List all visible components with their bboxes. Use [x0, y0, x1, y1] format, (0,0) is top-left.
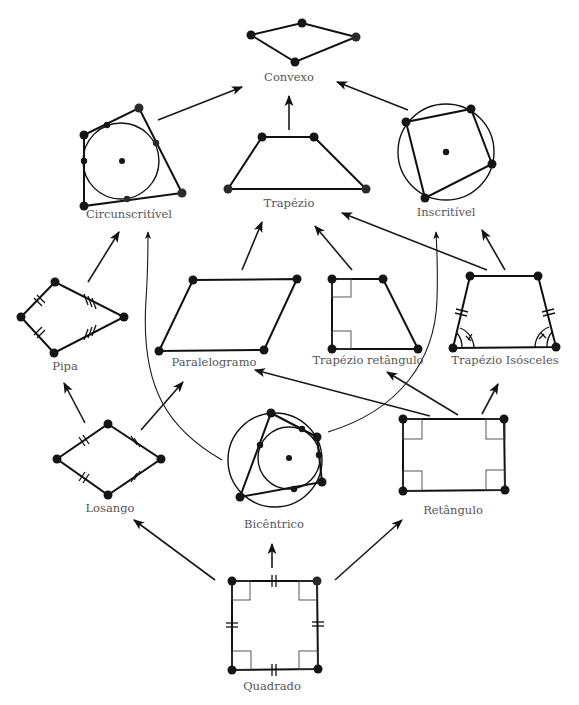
node-label-trapezio-isosceles: Trapézio Isósceles: [451, 353, 559, 367]
edge-bicentrico-circunscritivel: [145, 232, 222, 460]
node-label-bicentrico: Bicêntrico: [244, 517, 304, 531]
node-trapezio-retangulo: Trapézio retângulo: [312, 275, 423, 368]
edge-retangulo-trapisosceles: [482, 384, 498, 414]
edge-losango-pipa: [64, 383, 85, 423]
node-paralelogramo: Paralelogramo: [155, 275, 302, 370]
node-label-quadrado: Quadrado: [243, 679, 301, 693]
node-losango: Losango: [53, 420, 166, 516]
node-label-trapezio: Trapézio: [264, 196, 315, 210]
node-bicentrico: Bicêntrico: [228, 409, 327, 532]
node-quadrado: Quadrado: [226, 575, 324, 693]
node-inscritivel: Inscritível: [398, 104, 497, 219]
node-label-pipa: Pipa: [52, 359, 78, 373]
edge-retangulo-trapretangulo: [387, 372, 458, 415]
edge-trapisosceles-trapezio: [342, 213, 487, 270]
quadrilateral-hierarchy-diagram: Convexo Circunscritível Trapézio Inscrit…: [0, 0, 579, 705]
node-pipa: Pipa: [17, 278, 129, 374]
node-label-convexo: Convexo: [264, 70, 314, 84]
node-retangulo: Retângulo: [399, 415, 510, 518]
edge-circunscritivel-convexo: [158, 87, 242, 120]
edge-pipa-circunscritivel: [88, 232, 119, 282]
node-trapezio-isosceles: Trapézio Isósceles: [449, 272, 561, 368]
node-label-circunscritivel: Circunscritível: [86, 207, 172, 221]
node-label-losango: Losango: [85, 501, 134, 515]
edge-inscritivel-convexo: [337, 82, 408, 110]
edge-quadrado-losango: [134, 520, 215, 580]
node-circunscritivel: Circunscritível: [80, 104, 187, 222]
node-convexo: Convexo: [247, 19, 361, 85]
edge-paralelogramo-trapezio: [242, 222, 262, 270]
node-label-paralelogramo: Paralelogramo: [171, 355, 256, 369]
edge-trapisosceles-inscritivel: [482, 230, 505, 270]
edge-retangulo-paralelogramo: [255, 370, 430, 416]
node-label-inscritivel: Inscritível: [417, 205, 476, 219]
edge-quadrado-retangulo: [335, 520, 402, 580]
edge-trapretangulo-trapezio: [315, 226, 352, 270]
node-label-retangulo: Retângulo: [423, 503, 483, 517]
node-trapezio: Trapézio: [224, 133, 371, 211]
node-label-trapezio-retangulo: Trapézio retângulo: [312, 353, 423, 367]
